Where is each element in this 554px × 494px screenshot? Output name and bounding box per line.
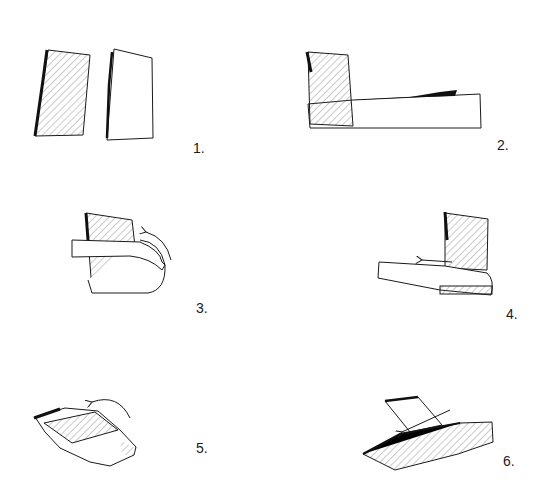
step-4-illustration [378,212,492,295]
step-2-illustration [307,52,481,128]
step-5-label: 5. [196,440,208,456]
step-1-label: 1. [193,140,205,156]
step-4-label: 4. [506,306,518,322]
step-6-illustration [363,397,493,470]
step-3-illustration [72,213,171,293]
step-3-label: 3. [196,300,208,316]
step-6-label: 6. [503,453,515,469]
step-5-illustration [34,400,136,466]
step-2-label: 2. [497,137,509,153]
folding-diagram [0,0,554,494]
step-1-illustration [35,49,153,140]
